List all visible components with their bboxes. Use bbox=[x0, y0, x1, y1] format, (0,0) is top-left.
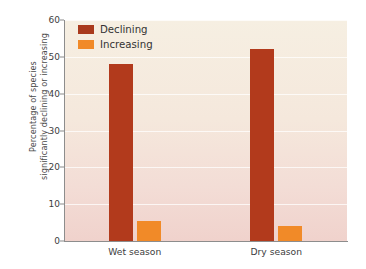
y-tick-label: 40 bbox=[38, 89, 60, 99]
x-tick-label: Wet season bbox=[108, 246, 161, 257]
y-axis-line bbox=[64, 20, 65, 242]
bar-chart-figure: Percentage of species significantly decl… bbox=[0, 0, 366, 269]
y-tick-label: 60 bbox=[38, 15, 60, 25]
gridline bbox=[64, 131, 347, 132]
y-tick-label: 50 bbox=[38, 52, 60, 62]
bar-declining-wet-season bbox=[109, 64, 133, 241]
legend-item-increasing: Increasing bbox=[78, 37, 153, 52]
legend-swatch-increasing-icon bbox=[78, 40, 94, 49]
legend-item-declining: Declining bbox=[78, 22, 153, 37]
y-tick-label: 20 bbox=[38, 162, 60, 172]
y-tick-label: 10 bbox=[38, 199, 60, 209]
legend-label-declining: Declining bbox=[100, 24, 148, 35]
gridline bbox=[64, 167, 347, 168]
gridline bbox=[64, 20, 347, 21]
bar-increasing-dry-season bbox=[278, 226, 302, 241]
x-tick-label: Dry season bbox=[250, 246, 302, 257]
legend-swatch-declining-icon bbox=[78, 25, 94, 34]
bar-declining-dry-season bbox=[250, 49, 274, 241]
y-axis-ticks: 0102030405060 bbox=[36, 0, 60, 269]
gridline bbox=[64, 204, 347, 205]
x-axis-line bbox=[64, 241, 348, 242]
bar-increasing-wet-season bbox=[137, 221, 161, 241]
plot-area: Declining Increasing bbox=[64, 20, 347, 241]
y-tick-label: 30 bbox=[38, 126, 60, 136]
gridline bbox=[64, 94, 347, 95]
legend: Declining Increasing bbox=[78, 22, 153, 52]
y-tick-label: 0 bbox=[38, 236, 60, 246]
legend-label-increasing: Increasing bbox=[100, 39, 153, 50]
gridline bbox=[64, 57, 347, 58]
